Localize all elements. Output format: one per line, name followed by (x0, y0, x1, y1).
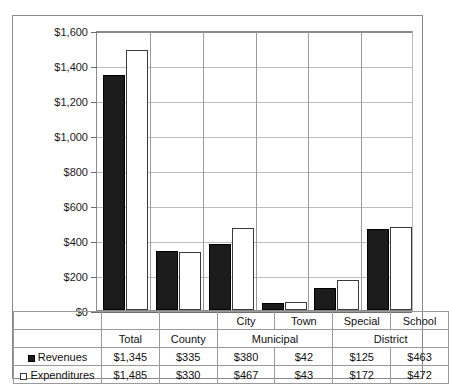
bar-school-expenditures (390, 227, 412, 310)
column-header-school: School (391, 312, 449, 330)
value-revenues-school: $463 (391, 348, 449, 366)
bar-total-revenues (103, 75, 125, 310)
y-axis-label: $200 (64, 272, 88, 283)
column-header-city: City (217, 312, 275, 330)
bar-group-special (308, 32, 361, 310)
hollow-square-icon (20, 373, 27, 380)
bar-town-revenues (262, 303, 284, 310)
table-row: Expenditures$1,485$330$467$43$172$472 (14, 366, 449, 384)
bar-town-expenditures (285, 302, 307, 310)
bar-county-expenditures (179, 252, 201, 310)
bar-group-total (97, 32, 150, 310)
bar-city-revenues (209, 244, 231, 311)
bar-group-county (150, 32, 203, 310)
column-header-spacer (159, 312, 217, 330)
bar-group-city (203, 32, 256, 310)
filled-square-icon (28, 355, 35, 362)
table-row: Revenues$1,345$335$380$42$125$463 (14, 348, 449, 366)
value-expenditures-county: $330 (159, 366, 217, 384)
table-header-row-bottom: TotalCountyMunicipalDistrict (14, 330, 449, 348)
data-table: CityTownSpecialSchool TotalCountyMunicip… (13, 311, 422, 378)
bar-special-expenditures (337, 280, 359, 310)
y-axis-label: $1,400 (54, 62, 88, 73)
column-header-spacer (102, 312, 160, 330)
bar-school-revenues (367, 229, 389, 310)
y-axis-label: $800 (64, 167, 88, 178)
series-name: Expenditures (30, 369, 94, 381)
value-revenues-city: $380 (217, 348, 275, 366)
column-header-town: Town (275, 312, 333, 330)
bar-special-revenues (314, 288, 336, 310)
bar-city-expenditures (232, 228, 254, 310)
table-corner-lower (14, 330, 102, 348)
y-axis-label: $600 (64, 202, 88, 213)
bar-group-town (256, 32, 309, 310)
series-name: Revenues (38, 351, 88, 363)
legend-row-expenditures: Expenditures (14, 366, 102, 384)
y-axis-label: $400 (64, 237, 88, 248)
bar-total-expenditures (126, 50, 148, 310)
value-expenditures-total: $1,485 (102, 366, 160, 384)
value-expenditures-town: $43 (275, 366, 333, 384)
value-revenues-town: $42 (275, 348, 333, 366)
y-axis-label: $1,600 (54, 27, 88, 38)
value-expenditures-school: $472 (391, 366, 449, 384)
bar-county-revenues (156, 251, 178, 310)
table-header-row-top: CityTownSpecialSchool (14, 312, 449, 330)
y-axis-label: $1,200 (54, 97, 88, 108)
column-header-special: Special (333, 312, 391, 330)
plot-area: $1,600$1,400$1,200$1,000$800$600$400$200… (96, 31, 413, 311)
value-expenditures-special: $172 (333, 366, 391, 384)
bar-group-school (361, 32, 414, 310)
value-expenditures-city: $467 (217, 366, 275, 384)
legend-row-revenues: Revenues (14, 348, 102, 366)
group-header-total: Total (102, 330, 160, 348)
group-header-municipal: Municipal (217, 330, 333, 348)
group-header-county: County (159, 330, 217, 348)
value-revenues-total: $1,345 (102, 348, 160, 366)
value-revenues-special: $125 (333, 348, 391, 366)
value-revenues-county: $335 (159, 348, 217, 366)
chart-frame: $1,600$1,400$1,200$1,000$800$600$400$200… (12, 15, 423, 379)
y-axis-label: $1,000 (54, 132, 88, 143)
value-table: CityTownSpecialSchool TotalCountyMunicip… (13, 311, 449, 384)
table-corner (14, 312, 102, 330)
group-header-district: District (333, 330, 449, 348)
